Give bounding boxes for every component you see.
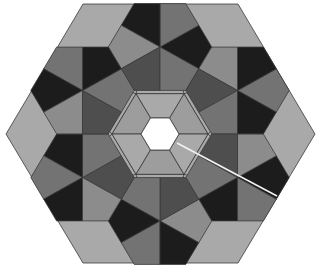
hexagon-mosaic-canvas bbox=[0, 0, 319, 270]
